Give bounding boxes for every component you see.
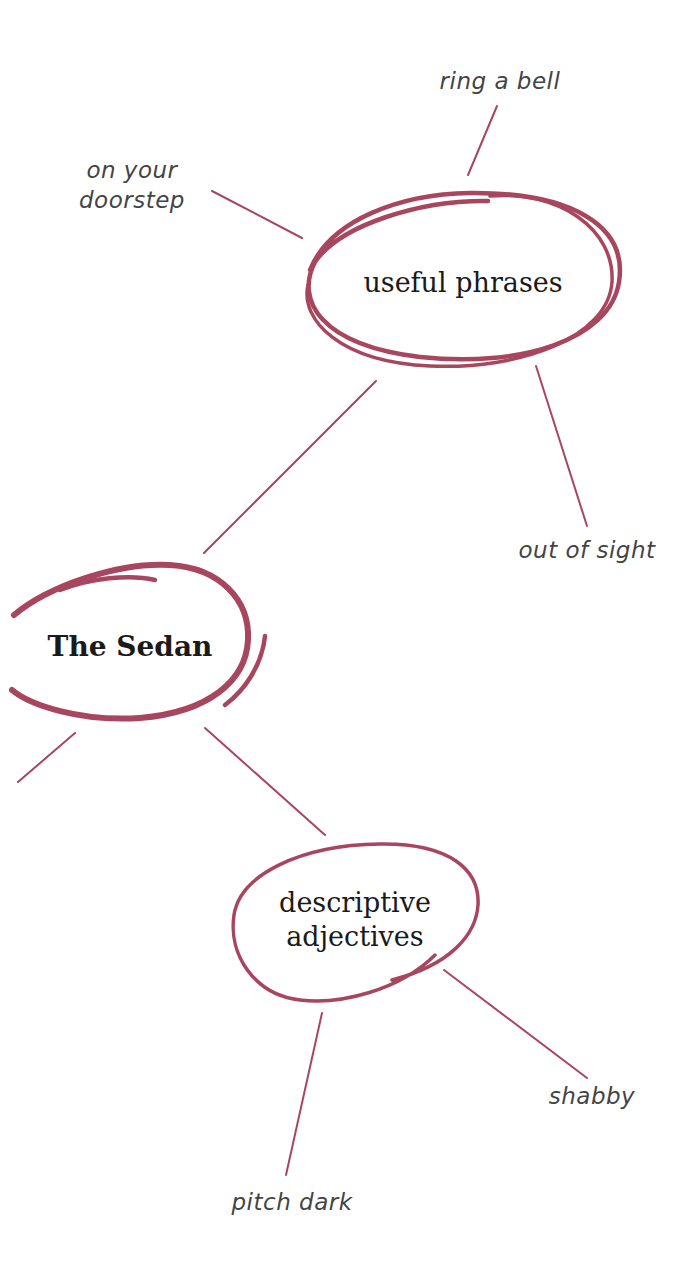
connector-pitch-dark [286, 1013, 322, 1175]
node-descriptive-adjectives-line1: descriptive [279, 886, 431, 920]
connector-sedan-to-adjectives [205, 728, 325, 835]
connector-out-of-sight [536, 366, 587, 526]
node-descriptive-adjectives: descriptive adjectives [279, 886, 431, 954]
leaf-on-your-doorstep: on your doorstep [79, 156, 185, 216]
leaf-shabby: shabby [549, 1082, 635, 1112]
leaf-ring-a-bell-text: ring a bell [440, 68, 561, 94]
leaf-on-your-text: on your [79, 156, 185, 186]
connector-shabby [444, 970, 587, 1078]
node-the-sedan-label: The Sedan [48, 630, 213, 663]
node-useful-phrases-label: useful phrases [363, 267, 562, 298]
connector-ring-a-bell [468, 106, 497, 175]
node-descriptive-adjectives-line2: adjectives [279, 920, 431, 954]
connector-sedan-to-phrases [204, 381, 376, 553]
leaf-doorstep-text: doorstep [79, 186, 185, 216]
leaf-out-of-sight: out of sight [518, 536, 655, 566]
connector-on-your-doorstep [212, 191, 302, 238]
leaf-pitch-dark-text: pitch dark [231, 1189, 352, 1215]
node-useful-phrases: useful phrases [363, 266, 562, 300]
node-the-sedan: The Sedan [48, 629, 213, 664]
leaf-out-of-sight-text: out of sight [518, 537, 655, 563]
leaf-ring-a-bell: ring a bell [440, 67, 561, 97]
leaf-pitch-dark: pitch dark [231, 1188, 352, 1218]
connector-sedan-offscreen [18, 733, 75, 782]
leaf-shabby-text: shabby [549, 1083, 635, 1109]
